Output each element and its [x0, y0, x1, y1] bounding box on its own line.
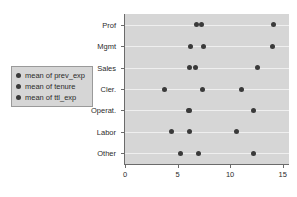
- x-axis-tick-mark: [230, 165, 231, 168]
- x-axis-tick-label: 0: [123, 170, 127, 179]
- x-axis-tick-label: 15: [279, 170, 287, 179]
- x-axis-tick-mark: [178, 165, 179, 168]
- x-axis-tick-labels: 051015: [0, 0, 297, 197]
- x-axis-tick-label: 10: [226, 170, 234, 179]
- x-axis-tick-label: 5: [175, 170, 179, 179]
- x-axis-tick-mark: [283, 165, 284, 168]
- x-axis-tick-mark: [125, 165, 126, 168]
- dot-plot-figure: mean of prev_exp mean of tenure mean of …: [0, 0, 297, 197]
